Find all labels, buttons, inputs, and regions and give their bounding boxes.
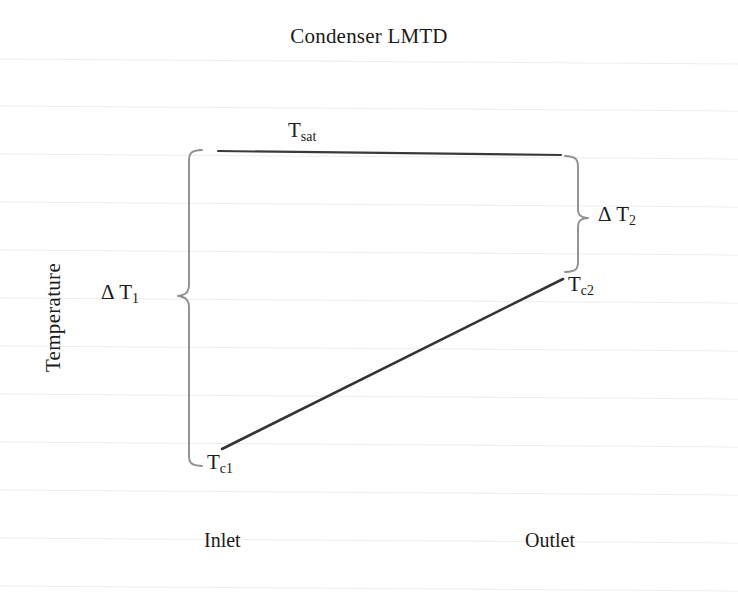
tc2-base: T: [568, 272, 581, 296]
delta-t1-brace: [178, 150, 202, 466]
delta-t1-base: T: [119, 280, 132, 304]
tc1-subscript: c1: [220, 461, 233, 476]
coolant-line: [222, 279, 563, 449]
tc1-label: Tc1: [207, 452, 233, 476]
tc2-subscript: c2: [581, 283, 594, 298]
y-axis-label: Temperature: [43, 238, 64, 398]
tsat-label: Tsat: [288, 120, 317, 144]
delta-t2-brace: [565, 156, 588, 272]
x-axis-label-inlet: Inlet: [204, 530, 241, 550]
tsat-subscript: sat: [301, 129, 317, 144]
delta-t1-delta-symbol: Δ: [101, 280, 115, 304]
tc2-label: Tc2: [568, 274, 594, 298]
chart-title: Condenser LMTD: [0, 26, 738, 47]
x-axis-label-outlet: Outlet: [525, 530, 575, 550]
delta-t2-subscript: 2: [629, 213, 636, 228]
delta-t2-label: ΔT2: [598, 204, 636, 228]
tsat-base: T: [288, 118, 301, 142]
delta-t2-delta-symbol: Δ: [598, 202, 612, 226]
delta-t1-subscript: 1: [132, 291, 139, 306]
delta-t2-base: T: [616, 202, 629, 226]
tsat-line: [218, 151, 561, 155]
tc1-base: T: [207, 450, 220, 474]
delta-t1-label: ΔT1: [101, 282, 139, 306]
